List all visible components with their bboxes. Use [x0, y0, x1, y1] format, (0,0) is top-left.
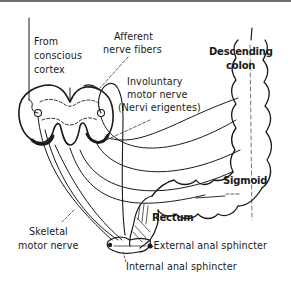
label-from-cortex-1: From: [34, 36, 58, 48]
label-afferent-2: nerve fibers: [103, 44, 162, 56]
label-descending-colon-1: Descending: [209, 46, 273, 58]
label-involuntary-3: (Nervi erigentes): [118, 102, 201, 114]
spinal-cord-cross-section: [19, 85, 113, 145]
label-external-anal-sphincter: -External anal sphincter: [150, 240, 267, 252]
label-internal-anal-sphincter: Internal anal sphincter: [126, 261, 237, 273]
label-involuntary-2: motor nerve: [127, 89, 187, 101]
label-skeletal-2: motor nerve: [18, 240, 78, 252]
label-descending-colon-2: colon: [226, 60, 255, 72]
label-from-cortex-3: cortex: [34, 64, 65, 76]
label-from-cortex-2: conscious: [34, 50, 82, 62]
label-involuntary-1: Involuntary: [127, 76, 183, 88]
diagram-canvas: From conscious cortex Afferent nerve fib…: [0, 0, 291, 285]
label-afferent-1: Afferent: [114, 31, 153, 43]
label-sigmoid: Sigmoid: [223, 175, 267, 187]
label-skeletal-1: Skeletal: [29, 226, 68, 238]
label-rectum: Rectum: [152, 212, 194, 224]
